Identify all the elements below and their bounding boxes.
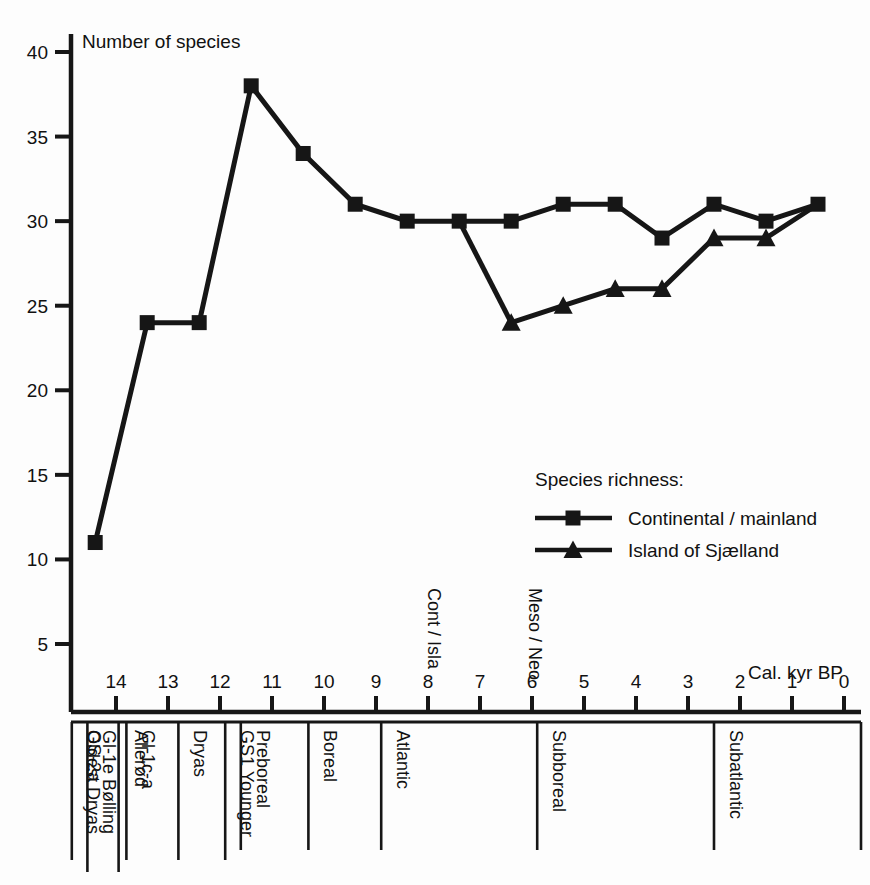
legend-entry-label: Island of Sjælland bbox=[628, 540, 779, 561]
zone-label: Subboreal bbox=[549, 730, 569, 812]
x-tick-label: 2 bbox=[735, 671, 746, 692]
legend-entry: Island of Sjælland bbox=[535, 540, 779, 561]
y-axis-title: Number of species bbox=[82, 31, 240, 52]
mainland-data-point bbox=[504, 214, 519, 229]
mainland-data-point bbox=[452, 214, 467, 229]
x-tick-label: 7 bbox=[475, 671, 486, 692]
data-series-group bbox=[88, 78, 826, 550]
x-axis-ticks: 14131211109876543210 bbox=[105, 671, 849, 712]
y-tick-label: 10 bbox=[27, 549, 48, 570]
vertical-annotation: Cont / Isla bbox=[424, 588, 444, 670]
mainland-data-point bbox=[556, 197, 571, 212]
mainland-data-point bbox=[348, 197, 363, 212]
x-tick-label: 3 bbox=[683, 671, 694, 692]
species-richness-chart: 510152025303540 14131211109876543210 Old… bbox=[0, 0, 870, 885]
legend-title: Species richness: bbox=[535, 469, 684, 490]
zone-label: Atlantic bbox=[393, 730, 413, 789]
stratigraphy-zone: Dryas bbox=[178, 722, 210, 860]
zone-label: Boreal bbox=[320, 730, 340, 782]
mainland-data-point bbox=[655, 231, 670, 246]
y-tick-label: 35 bbox=[27, 127, 48, 148]
legend-marker-square bbox=[566, 511, 581, 526]
stratigraphy-zone: Subatlantic bbox=[714, 722, 746, 850]
mainland-series-line bbox=[95, 86, 818, 543]
mainland-data-point bbox=[244, 78, 259, 93]
x-tick-label: 10 bbox=[313, 671, 334, 692]
y-tick-label: 30 bbox=[27, 211, 48, 232]
y-axis-ticks: 510152025303540 bbox=[27, 42, 71, 655]
x-tick-label: 4 bbox=[631, 671, 642, 692]
zone-label: Preboreal bbox=[253, 730, 273, 808]
y-tick-label: 40 bbox=[27, 42, 48, 63]
mainland-data-point bbox=[192, 315, 207, 330]
island-branch-connector bbox=[459, 221, 511, 322]
stratigraphy-zone: Atlantic bbox=[381, 722, 413, 850]
x-tick-label: 9 bbox=[371, 671, 382, 692]
mainland-data-point bbox=[707, 197, 722, 212]
mainland-data-point bbox=[400, 214, 415, 229]
vertical-annotation: Meso / Neo bbox=[525, 588, 545, 680]
y-tick-label: 15 bbox=[27, 465, 48, 486]
stratigraphy-zones: Oldest DryasGS-2aGl-1e BøllingAllerødGl-… bbox=[71, 722, 861, 872]
x-tick-label: 12 bbox=[209, 671, 230, 692]
x-tick-label: 14 bbox=[105, 671, 127, 692]
x-tick-label: 13 bbox=[157, 671, 178, 692]
mainland-data-point bbox=[140, 315, 155, 330]
x-tick-label: 5 bbox=[579, 671, 590, 692]
legend-group: Species richness:Continental / mainlandI… bbox=[535, 469, 817, 561]
stratigraphy-zone: Subboreal bbox=[537, 722, 569, 850]
zone-label: Subatlantic bbox=[726, 730, 746, 819]
zone-label: Gl-1e Bølling bbox=[99, 730, 119, 834]
x-tick-label: 11 bbox=[262, 671, 282, 692]
y-tick-label: 20 bbox=[27, 380, 48, 401]
zone-label: Gl-1c-a bbox=[138, 730, 158, 790]
y-tick-label: 5 bbox=[37, 634, 48, 655]
mainland-data-point bbox=[296, 146, 311, 161]
legend-entry: Continental / mainland bbox=[535, 508, 817, 529]
mainland-data-point bbox=[811, 197, 826, 212]
mainland-data-point bbox=[608, 197, 623, 212]
annotations-group: Cont / IslaMeso / Neo bbox=[424, 588, 545, 680]
mainland-data-point bbox=[759, 214, 774, 229]
chart-canvas: 510152025303540 14131211109876543210 Old… bbox=[0, 0, 870, 885]
legend-entry-label: Continental / mainland bbox=[628, 508, 817, 529]
zone-label: Dryas bbox=[190, 730, 210, 777]
x-axis-title: Cal. kyr BP bbox=[748, 662, 843, 683]
stratigraphy-zone: Boreal bbox=[308, 722, 340, 850]
mainland-data-point bbox=[88, 535, 103, 550]
axes-group bbox=[71, 34, 861, 712]
y-tick-label: 25 bbox=[27, 296, 48, 317]
x-tick-label: 8 bbox=[423, 671, 434, 692]
